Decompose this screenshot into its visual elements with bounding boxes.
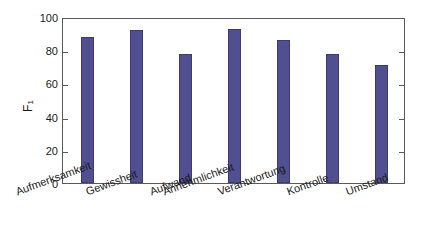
x-axis-tick-mark [333,179,334,183]
x-axis-tick-labels: AufmerksamkeitGewissheitAufwandAnnehmlic… [0,186,428,227]
y-axis-tick-mark [63,119,68,120]
bar-chart-figure: F1 020406080100 AufmerksamkeitGewissheit… [0,0,428,227]
y-axis-tick-mark [399,119,404,120]
bar [130,30,143,183]
y-axis-tick-label: 80 [30,46,58,57]
y-axis-tick-label: 20 [30,145,58,156]
y-axis-tick-mark [399,152,404,153]
x-axis-tick-mark [88,179,89,183]
bar [277,40,290,183]
y-axis-tick-mark [399,52,404,53]
y-axis-tick-label: 40 [30,112,58,123]
y-axis-tick-labels: 020406080100 [26,18,58,184]
bar [375,65,388,183]
bar [326,54,339,183]
y-axis-tick-mark [63,85,68,86]
bar [179,54,192,183]
y-axis-tick-mark [63,52,68,53]
y-axis-tick-label: 60 [30,79,58,90]
y-axis-tick-label: 100 [30,13,58,24]
plot-area [62,18,405,184]
x-axis-tick-mark [284,179,285,183]
y-axis-tick-mark [399,85,404,86]
y-axis-tick-mark [63,152,68,153]
